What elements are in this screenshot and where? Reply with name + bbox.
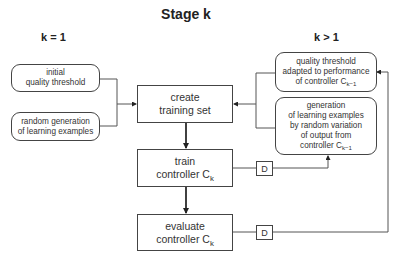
right-merge-connector: [234, 73, 275, 128]
random-generation-box: random generation of learning examples: [11, 112, 100, 141]
box-text: of output from: [301, 131, 352, 141]
box-text: of learning examples: [288, 111, 364, 121]
box-text: of controller Ck−1: [295, 77, 356, 87]
train-controller-box: train controller Ck: [137, 149, 233, 187]
box-text: create: [170, 91, 199, 104]
box-text: by random variation: [290, 121, 362, 131]
box-text: adapted to performance: [283, 67, 370, 77]
delay-box-train: D: [256, 161, 273, 176]
learning-examples-variation-box: generation of learning examples by rando…: [275, 97, 377, 155]
column-label-k-equals-1: k = 1: [41, 31, 66, 43]
subscript: k−1: [346, 80, 356, 87]
delay-box-evaluate: D: [256, 225, 273, 240]
box-text: generation: [307, 101, 346, 111]
box-text: controller Ck−1: [300, 141, 352, 151]
box-text: controller Ck: [156, 168, 214, 181]
box-text: evaluate: [165, 220, 205, 233]
left-merge-connector: [100, 79, 136, 126]
adapted-quality-threshold-box: quality threshold adapted to performance…: [275, 52, 377, 92]
create-training-set-box: create training set: [137, 85, 233, 123]
subscript: k−1: [342, 144, 352, 151]
evaluate-controller-box: evaluate controller Ck: [137, 214, 233, 251]
box-text-main: controller C: [156, 233, 210, 245]
box-text: quality threshold: [296, 57, 356, 67]
box-text: training set: [159, 104, 210, 117]
box-text: of learning examples: [18, 127, 94, 137]
box-text: quality threshold: [26, 78, 86, 88]
diagram-title: Stage k: [150, 6, 222, 22]
box-text: train: [175, 155, 195, 168]
subscript: k: [210, 174, 214, 183]
column-label-k-greater-1: k > 1: [314, 31, 339, 43]
initial-quality-threshold-box: initial quality threshold: [11, 64, 100, 92]
box-text-main: of controller C: [295, 77, 346, 86]
box-text: controller Ck: [156, 233, 214, 246]
subscript: k: [210, 238, 214, 247]
box-text: initial: [46, 68, 65, 78]
feedback-train-connector: [233, 156, 328, 168]
box-text: random generation: [21, 117, 90, 127]
box-text-main: controller C: [300, 141, 342, 150]
box-text-main: controller C: [156, 168, 210, 180]
